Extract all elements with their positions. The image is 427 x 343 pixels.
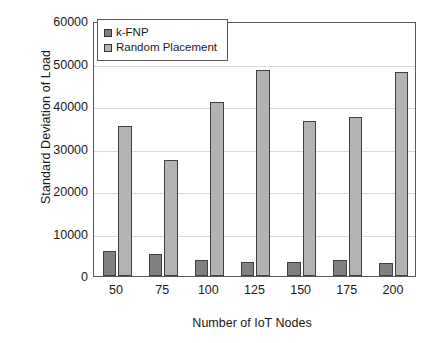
bar-chart-figure: Standard Deviation of Load 0100002000030… <box>0 0 427 343</box>
bar-k-fnp-175[interactable] <box>333 260 347 276</box>
bar-random-placement-50[interactable] <box>118 126 132 276</box>
bar-random-placement-125[interactable] <box>256 70 270 276</box>
x-axis-tick-label: 50 <box>109 283 123 297</box>
x-axis-tick-label: 100 <box>198 283 219 297</box>
bar-k-fnp-75[interactable] <box>149 254 163 276</box>
chart-legend: k-FNPRandom Placement <box>97 19 228 61</box>
legend-swatch-random-placement-icon <box>104 44 112 52</box>
x-axis-tick-label: 200 <box>382 283 403 297</box>
x-axis-tick-label: 175 <box>336 283 357 297</box>
bar-random-placement-150[interactable] <box>303 121 317 276</box>
x-axis-tick-labels: 5075100125150175200 <box>93 283 416 303</box>
legend-label: Random Placement <box>116 41 217 54</box>
x-axis-tick-label: 125 <box>244 283 265 297</box>
y-axis-tick-label: 10000 <box>34 228 88 241</box>
y-axis-tick-label: 20000 <box>34 186 88 199</box>
bar-k-fnp-200[interactable] <box>379 263 393 276</box>
y-axis-tick-label: 50000 <box>34 58 88 71</box>
bar-random-placement-200[interactable] <box>395 72 409 276</box>
legend-entry[interactable]: k-FNP <box>104 26 217 39</box>
bar-random-placement-75[interactable] <box>164 160 178 276</box>
bar-k-fnp-125[interactable] <box>241 262 255 276</box>
legend-entry[interactable]: Random Placement <box>104 41 217 54</box>
bar-random-placement-175[interactable] <box>349 117 363 276</box>
bar-k-fnp-50[interactable] <box>103 251 117 276</box>
bar-group <box>279 23 325 276</box>
bar-k-fnp-150[interactable] <box>287 262 301 276</box>
x-axis-title: Number of IoT Nodes <box>92 316 412 330</box>
bar-group <box>325 23 371 276</box>
bar-k-fnp-100[interactable] <box>195 260 209 276</box>
y-axis-tick-label: 30000 <box>34 143 88 156</box>
y-axis-tick-label: 40000 <box>34 101 88 114</box>
y-axis-tick-label: 60000 <box>34 16 88 29</box>
x-axis-tick-label: 75 <box>155 283 169 297</box>
y-axis-tick-labels: 0100002000030000400005000060000 <box>34 0 88 343</box>
x-axis-tick-label: 150 <box>290 283 311 297</box>
bar-group <box>371 23 417 276</box>
y-axis-tick-label: 0 <box>34 271 88 284</box>
bar-group <box>232 23 278 276</box>
bar-random-placement-100[interactable] <box>210 102 224 276</box>
legend-swatch-k-fnp-icon <box>104 29 112 37</box>
legend-label: k-FNP <box>116 26 149 39</box>
